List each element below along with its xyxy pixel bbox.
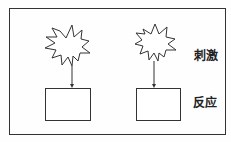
stimulus-response-diagram: 刺激 反应 [0,0,231,142]
stimulus-starburst-1 [45,25,90,66]
outer-frame [10,9,226,135]
arrowhead-1 [70,84,74,88]
response-label: 反应 [193,93,217,110]
stimulus-starburst-2 [135,24,176,61]
response-box-1 [46,89,91,121]
diagram-graphics [0,0,231,142]
response-box-2 [137,89,181,121]
stimulus-label: 刺激 [194,46,218,63]
arrowhead-2 [152,84,156,88]
